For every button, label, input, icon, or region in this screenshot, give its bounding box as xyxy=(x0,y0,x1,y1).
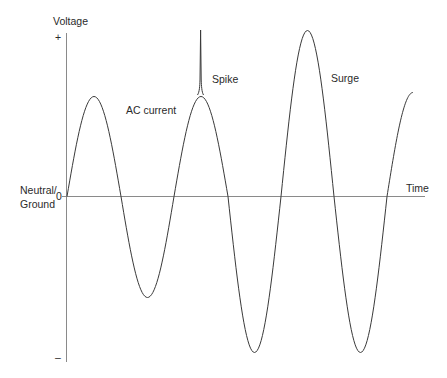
zero-label: 0 xyxy=(56,190,62,202)
ac-current-label: AC current xyxy=(126,104,176,116)
voltage-waveform-diagram: Voltage + – 0 Neutral/ Ground Time AC cu… xyxy=(0,0,447,378)
y-axis-label: Voltage xyxy=(53,15,88,27)
ground-label: Ground xyxy=(20,198,55,210)
x-axis-label: Time xyxy=(406,182,429,194)
y-plus-label: + xyxy=(55,31,61,43)
spike-label: Spike xyxy=(212,73,238,85)
y-minus-label: – xyxy=(55,351,61,363)
surge-label: Surge xyxy=(331,72,359,84)
ac-waveform xyxy=(67,31,413,353)
spike-transient xyxy=(198,30,204,95)
neutral-label: Neutral/ xyxy=(20,184,57,196)
